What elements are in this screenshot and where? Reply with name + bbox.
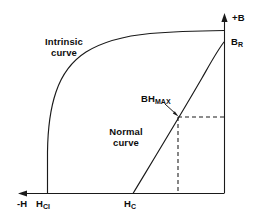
- figure-canvas: [0, 0, 255, 222]
- energy-product-subscript: MAX: [155, 98, 171, 105]
- coercivity-label: HC: [124, 198, 136, 209]
- energy-product-symbol: BH: [141, 93, 155, 104]
- axis-label-positive-b: +B: [232, 12, 245, 23]
- intrinsic-coercivity-subscript: CI: [43, 203, 50, 210]
- remanence-symbol: B: [231, 36, 238, 47]
- coercivity-subscript: C: [131, 203, 136, 210]
- demagnetization-curve-figure: +B -H BR HCI HC BHMAX Intrinsic curve No…: [0, 0, 255, 222]
- intrinsic-curve-label-line2: curve: [33, 47, 95, 58]
- remanence-label: BR: [231, 36, 243, 47]
- energy-product-label: BHMAX: [141, 93, 171, 104]
- vertical-axis-arrow-icon: [221, 13, 227, 22]
- axis-label-negative-h: -H: [17, 198, 27, 209]
- normal-curve-label-line2: curve: [97, 137, 155, 148]
- intrinsic-coercivity-symbol: H: [36, 198, 43, 209]
- coercivity-symbol: H: [124, 198, 131, 209]
- remanence-subscript: R: [238, 41, 243, 48]
- normal-curve-label-line1: Normal: [97, 126, 155, 137]
- intrinsic-curve-label: Intrinsic curve: [33, 36, 95, 58]
- horizontal-axis-arrow-icon: [18, 190, 27, 196]
- intrinsic-curve-label-line1: Intrinsic: [33, 36, 95, 47]
- normal-curve-label: Normal curve: [97, 126, 155, 148]
- intrinsic-coercivity-label: HCI: [36, 198, 50, 209]
